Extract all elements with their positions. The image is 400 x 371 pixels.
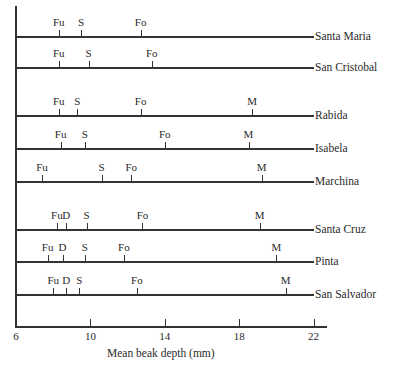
species-tick [77, 109, 78, 115]
species-label: S [82, 129, 88, 140]
species-label: Fo [137, 210, 149, 221]
species-label: D [62, 275, 70, 286]
island-label: Pinta [315, 255, 339, 267]
species-label: Fo [118, 242, 130, 253]
species-label: Fo [131, 275, 143, 286]
species-tick [165, 142, 166, 148]
x-tick-mark [314, 319, 315, 326]
species-tick [85, 255, 86, 261]
species-tick [63, 255, 64, 261]
species-label: Fo [135, 17, 147, 28]
x-tick-label: 22 [308, 331, 319, 342]
species-label: Fu [51, 210, 63, 221]
species-tick [59, 109, 60, 115]
species-label: Fu [53, 48, 65, 59]
island-line [16, 229, 314, 231]
species-tick [276, 255, 277, 261]
species-tick [81, 30, 82, 36]
species-label: Fu [47, 275, 59, 286]
species-tick [57, 223, 58, 229]
species-label: M [247, 96, 257, 107]
species-label: S [74, 96, 80, 107]
island-line [16, 294, 314, 296]
island-line [16, 36, 314, 38]
species-tick [124, 255, 125, 261]
island-line [16, 115, 314, 117]
island-label: San Salvador [315, 288, 376, 300]
island-line [16, 261, 314, 263]
species-tick [286, 288, 287, 294]
x-tick-label: 10 [85, 331, 96, 342]
species-label: Fu [36, 162, 48, 173]
species-label: S [98, 162, 104, 173]
x-tick-mark [90, 319, 91, 326]
species-tick [252, 109, 253, 115]
species-tick [249, 142, 250, 148]
species-tick [59, 30, 60, 36]
species-label: Fo [126, 162, 138, 173]
species-tick [102, 175, 103, 181]
species-label: S [82, 242, 88, 253]
x-tick-mark [165, 319, 166, 326]
species-label: M [255, 210, 265, 221]
species-label: Fo [135, 96, 147, 107]
species-tick [66, 288, 67, 294]
species-label: S [84, 210, 90, 221]
x-axis-title: Mean beak depth (mm) [107, 347, 215, 359]
species-tick [89, 61, 90, 67]
species-tick [152, 61, 153, 67]
species-tick [79, 288, 80, 294]
species-tick [59, 61, 60, 67]
species-tick [87, 223, 88, 229]
species-label: M [257, 162, 267, 173]
species-label: S [85, 48, 91, 59]
x-tick-label: 18 [234, 331, 245, 342]
species-tick [48, 255, 49, 261]
species-label: M [281, 275, 291, 286]
species-tick [141, 109, 142, 115]
species-tick [85, 142, 86, 148]
x-tick-label: 14 [159, 331, 170, 342]
species-label: M [244, 129, 254, 140]
species-tick [131, 175, 132, 181]
species-tick [53, 288, 54, 294]
island-label: San Cristobal [315, 61, 377, 73]
island-label: Santa Cruz [315, 223, 366, 235]
y-axis-line [15, 6, 17, 327]
island-label: Rabida [315, 109, 348, 121]
species-label: D [59, 242, 67, 253]
species-tick [61, 142, 62, 148]
x-tick-mark [239, 319, 240, 326]
island-label: Isabela [315, 142, 348, 154]
species-tick [260, 223, 261, 229]
island-label: Marchina [315, 175, 359, 187]
species-tick [262, 175, 263, 181]
beak-depth-chart: Santa MariaFuSFoSan CristobalFuSFoRabida… [0, 0, 400, 371]
species-tick [66, 223, 67, 229]
species-label: M [272, 242, 282, 253]
species-label: Fo [159, 129, 171, 140]
species-label: Fu [55, 129, 67, 140]
species-label: Fu [53, 17, 65, 28]
species-label: Fu [53, 96, 65, 107]
island-label: Santa Maria [315, 30, 371, 42]
species-label: Fu [42, 242, 54, 253]
species-label: S [76, 275, 82, 286]
species-label: Fo [146, 48, 158, 59]
island-line [16, 67, 314, 69]
species-tick [141, 30, 142, 36]
species-tick [42, 175, 43, 181]
species-tick [137, 288, 138, 294]
island-line [16, 148, 314, 150]
x-tick-label: 6 [13, 331, 19, 342]
island-line [16, 181, 314, 183]
x-axis-line [15, 326, 327, 328]
species-label: S [78, 17, 84, 28]
species-label: D [62, 210, 70, 221]
species-tick [142, 223, 143, 229]
